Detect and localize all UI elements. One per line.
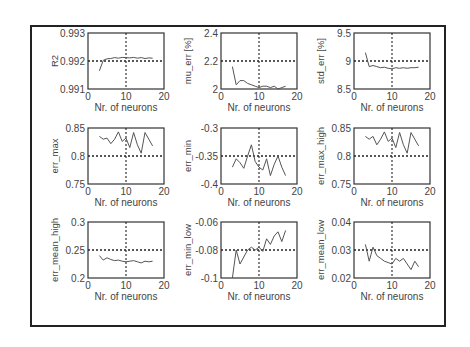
x-tick-label: 20 [291,91,303,102]
y-tick-label: 0.85 [332,123,352,134]
subplot-err-min: -0.3-0.35-0.401020Nr. of neuronserr_min [182,123,303,209]
y-axis-label: R2 [49,55,60,67]
y-tick-label: 2.4 [204,28,218,39]
y-tick-label: -0.3 [201,123,219,134]
subplot-std-err-: 9.598.501020Nr. of neuronsstd_err [%] [315,28,436,114]
y-axis-label: err_mean_high [49,218,60,282]
y-tick-label: -0.1 [201,273,219,284]
x-axis-label: Nr. of neurons [95,197,158,208]
y-tick-label: 0.04 [332,217,352,228]
x-tick-label: 0 [218,186,224,197]
x-tick-label: 20 [291,186,303,197]
x-tick-label: 0 [351,186,357,197]
y-axis-label: err_min [182,140,193,172]
x-tick-label: 20 [424,91,436,102]
x-tick-label: 20 [424,280,436,291]
x-tick-label: 10 [253,91,265,102]
x-axis-label: Nr. of neurons [95,291,158,302]
x-axis-label: Nr. of neurons [361,102,424,113]
x-axis-label: Nr. of neurons [228,197,291,208]
y-tick-label: 0.991 [60,84,85,95]
y-tick-label: 9.5 [337,28,351,39]
x-tick-label: 0 [218,91,224,102]
x-tick-label: 10 [386,186,398,197]
y-tick-label: 8.5 [337,84,351,95]
x-tick-label: 10 [253,280,265,291]
x-tick-label: 0 [351,280,357,291]
y-tick-label: 0.03 [332,245,352,256]
y-axis-label: err_min_low [182,224,193,276]
y-tick-label: 0.75 [332,179,352,190]
y-tick-label: -0.4 [201,179,219,190]
x-tick-label: 0 [85,91,91,102]
subplot-err-min-low: -0.06-0.08-0.101020Nr. of neuronserr_min… [182,217,303,303]
y-tick-label: 2.2 [204,56,218,67]
x-tick-label: 10 [120,186,132,197]
x-axis-label: Nr. of neurons [228,291,291,302]
y-tick-label: 0.3 [71,217,85,228]
x-axis-label: Nr. of neurons [361,197,424,208]
y-tick-label: -0.35 [195,151,218,162]
subplot-mu-err-: 2.42.2201020Nr. of neuronsmu_err [%] [182,28,303,114]
y-axis-label: mu_err [%] [182,38,193,84]
subplot-r2: 0.9930.9920.99101020Nr. of neuronsR2 [49,28,170,114]
y-tick-label: 9 [345,56,351,67]
subplot-err-mean-high: 0.30.250.201020Nr. of neuronserr_mean_hi… [49,217,170,303]
y-tick-label: -0.06 [195,217,218,228]
y-tick-label: -0.08 [195,245,218,256]
x-tick-label: 20 [158,91,170,102]
x-tick-label: 20 [158,280,170,291]
x-tick-label: 10 [386,91,398,102]
x-tick-label: 20 [424,186,436,197]
y-tick-label: 0.2 [71,273,85,284]
y-tick-label: 0.8 [71,151,85,162]
y-tick-label: 0.8 [337,151,351,162]
y-tick-label: 0.993 [60,28,85,39]
x-tick-label: 0 [85,186,91,197]
y-tick-label: 0.25 [66,245,86,256]
x-tick-label: 0 [218,280,224,291]
x-tick-label: 0 [351,91,357,102]
subplot-err-mean-low: 0.040.030.0201020Nr. of neuronserr_mean_… [315,217,436,303]
x-tick-label: 10 [386,280,398,291]
x-axis-label: Nr. of neurons [95,102,158,113]
y-axis-label: std_err [%] [315,38,326,84]
y-tick-label: 0.02 [332,273,352,284]
x-axis-label: Nr. of neurons [228,102,291,113]
subplot-err-max-high: 0.850.80.7501020Nr. of neuronserr_max_hi… [315,123,436,209]
y-axis-label: err_max [49,138,60,173]
x-tick-label: 10 [253,186,265,197]
y-axis-label: err_max_high [315,127,326,185]
y-axis-label: err_mean_low [315,220,326,280]
x-tick-label: 20 [291,280,303,291]
y-tick-label: 0.75 [66,179,86,190]
x-tick-label: 20 [158,186,170,197]
x-tick-label: 10 [120,91,132,102]
x-axis-label: Nr. of neurons [361,291,424,302]
subplot-err-max: 0.850.80.7501020Nr. of neuronserr_max [49,123,170,209]
figure-canvas: 0.9930.9920.99101020Nr. of neuronsR22.42… [0,0,470,347]
x-tick-label: 0 [85,280,91,291]
y-tick-label: 0.992 [60,56,85,67]
x-tick-label: 10 [120,280,132,291]
y-tick-label: 0.85 [66,123,86,134]
